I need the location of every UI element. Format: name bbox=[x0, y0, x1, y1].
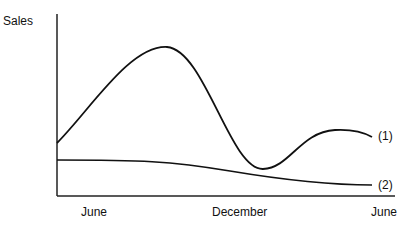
series-1-label: (1) bbox=[378, 129, 393, 143]
series-2-label: (2) bbox=[378, 178, 393, 192]
series-1-line bbox=[57, 47, 372, 169]
x-tick-june-end: June bbox=[371, 205, 397, 219]
x-tick-june-start: June bbox=[81, 205, 107, 219]
line-chart bbox=[0, 0, 410, 228]
x-tick-december: December bbox=[212, 205, 267, 219]
series-2-line bbox=[57, 160, 372, 185]
y-axis-label: Sales bbox=[3, 14, 33, 28]
